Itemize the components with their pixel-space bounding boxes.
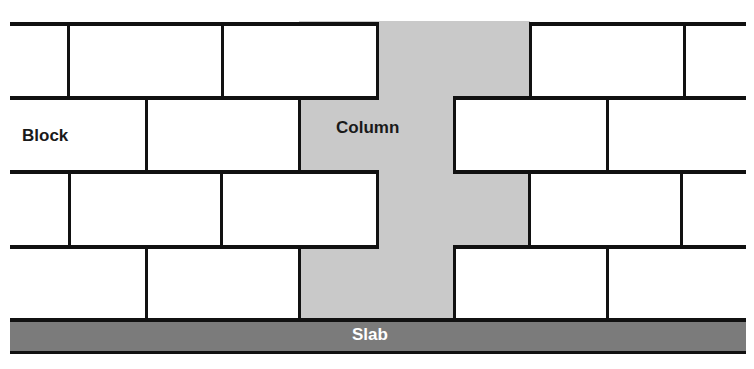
bed-joint — [10, 96, 379, 100]
column-edge — [298, 96, 301, 174]
bed-joint — [453, 96, 746, 100]
right-course-3 — [529, 172, 746, 247]
column-edge — [453, 96, 456, 174]
head-joint — [68, 172, 71, 247]
head-joint — [145, 98, 148, 172]
column-edge — [376, 22, 379, 100]
column-edge — [453, 245, 456, 322]
bed-joint — [453, 170, 746, 174]
head-joint — [680, 172, 683, 247]
left-course-1 — [10, 24, 377, 98]
head-joint — [67, 24, 70, 98]
left-course-4 — [10, 247, 299, 320]
head-joint — [220, 172, 223, 247]
column-edge — [376, 170, 379, 249]
slab-label: Slab — [352, 326, 388, 343]
bed-joint — [10, 170, 379, 174]
masonry-column-diagram: Block Column Slab — [0, 0, 754, 369]
right-course-2 — [454, 98, 746, 172]
column-edge — [528, 170, 531, 249]
bed-joint — [10, 22, 379, 26]
right-course-4 — [454, 247, 746, 320]
head-joint — [221, 24, 224, 98]
bed-joint — [529, 22, 746, 26]
column-edge — [298, 245, 301, 322]
head-joint — [683, 24, 686, 98]
block-label: Block — [22, 127, 68, 144]
column-label: Column — [336, 119, 399, 136]
head-joint — [145, 247, 148, 320]
left-course-3 — [10, 172, 377, 247]
head-joint — [606, 247, 609, 320]
column-edge — [529, 22, 532, 100]
right-course-1 — [530, 24, 746, 98]
bed-joint — [10, 245, 379, 249]
head-joint — [606, 98, 609, 172]
bed-joint — [453, 245, 746, 249]
